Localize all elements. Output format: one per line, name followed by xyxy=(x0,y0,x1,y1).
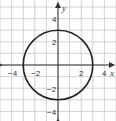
coordinate-plane: −4 −2 2 4 4 2 −2 −4 x y xyxy=(0,0,116,121)
y-tick-label: 4 xyxy=(52,15,57,24)
y-axis-label: y xyxy=(61,3,66,13)
y-tick-label: −4 xyxy=(47,108,57,117)
x-tick-label: −4 xyxy=(8,69,18,78)
x-tick-label: 2 xyxy=(79,69,84,78)
x-tick-label: 4 xyxy=(102,69,107,78)
y-tick-label: −2 xyxy=(47,85,57,94)
y-tick-label: 2 xyxy=(52,38,57,47)
x-axis-label: x xyxy=(109,68,114,78)
x-tick-label: −2 xyxy=(31,69,41,78)
